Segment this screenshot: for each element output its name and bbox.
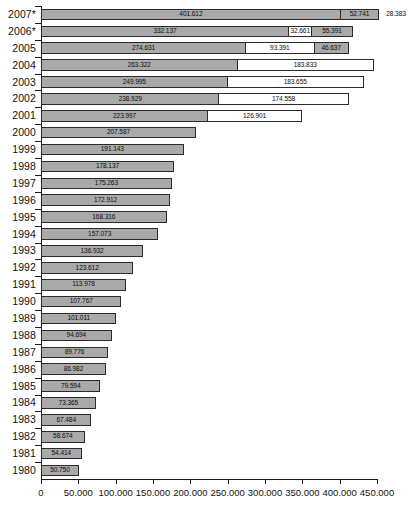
bar-segment[interactable]: 332.137 [41, 26, 289, 38]
x-axis-tick [190, 479, 191, 484]
bar-segment[interactable]: 52.741 [340, 9, 379, 21]
bar-segment[interactable]: 86.982 [41, 363, 106, 375]
bar-value-label: 79.594 [61, 383, 81, 390]
bar-segment[interactable]: 73.365 [41, 397, 96, 409]
y-axis-category-label: 1990 [0, 295, 36, 307]
y-axis-category-label: 2000 [0, 126, 36, 138]
y-axis-tick [35, 310, 41, 311]
stacked-bar[interactable]: 136.932 [41, 245, 143, 257]
x-axis-tick-label: 0 [38, 487, 43, 498]
y-axis-category-label: 1993 [0, 244, 36, 256]
stacked-bar[interactable]: 168.316 [41, 211, 167, 223]
bar-segment[interactable]: 58.674 [41, 431, 85, 443]
bar-segment[interactable]: 136.932 [41, 245, 143, 257]
bar-segment[interactable]: 113.978 [41, 279, 126, 291]
bar-segment[interactable]: 67.484 [41, 414, 91, 426]
stacked-bar[interactable]: 50.750 [41, 465, 79, 477]
y-axis-category-label: 1994 [0, 228, 36, 240]
stacked-bar[interactable]: 191.143 [41, 144, 184, 156]
bar-segment[interactable]: 274.631 [41, 42, 246, 54]
x-axis-tick-label: 450.000 [360, 487, 394, 498]
y-axis-tick [35, 23, 41, 24]
stacked-bar[interactable]: 54.414 [41, 448, 82, 460]
bar-segment[interactable]: 175.263 [41, 178, 172, 190]
stacked-bar[interactable]: 332.13732.66155.391 [41, 26, 353, 38]
y-axis-category-label: 2003 [0, 76, 36, 88]
bar-segment[interactable]: 46.637 [314, 42, 349, 54]
bar-value-label: 54.414 [52, 450, 72, 457]
stacked-bar[interactable]: 207.587 [41, 127, 196, 139]
bar-value-label: 123.612 [76, 265, 99, 272]
bar-value-label: 168.316 [92, 214, 115, 221]
x-axis-tick [78, 479, 79, 484]
bar-segment[interactable]: 183.833 [237, 59, 374, 71]
bar-segment[interactable]: 79.594 [41, 380, 100, 392]
x-axis-tick [228, 479, 229, 484]
bar-value-label: 126.901 [243, 113, 266, 120]
stacked-bar[interactable]: 263.322183.833 [41, 59, 374, 71]
stacked-bar[interactable]: 89.776 [41, 347, 108, 359]
bar-segment[interactable]: 94.694 [41, 330, 112, 342]
stacked-bar[interactable]: 107.767 [41, 296, 121, 308]
stacked-bar[interactable]: 86.982 [41, 363, 106, 375]
bar-segment[interactable]: 249.995 [41, 76, 228, 88]
stacked-bar[interactable]: 94.694 [41, 330, 112, 342]
bar-segment[interactable]: 93.391 [245, 42, 315, 54]
bar-segment[interactable]: 263.322 [41, 59, 238, 71]
stacked-bar[interactable]: 157.073 [41, 228, 158, 240]
bar-segment[interactable]: 183.655 [227, 76, 364, 88]
stacked-bar[interactable]: 67.484 [41, 414, 91, 426]
stacked-bar[interactable]: 58.674 [41, 431, 85, 443]
bar-segment[interactable]: 89.776 [41, 347, 108, 359]
y-axis-category-label: 1995 [0, 211, 36, 223]
bar-segment[interactable]: 178.137 [41, 161, 174, 173]
y-axis-category-label: 1984 [0, 396, 36, 408]
bar-segment[interactable]: 174.558 [218, 93, 348, 105]
y-axis-tick [35, 6, 41, 7]
bar-segment[interactable]: 157.073 [41, 228, 158, 240]
y-axis-tick [35, 462, 41, 463]
stacked-bar[interactable]: 172.912 [41, 194, 170, 206]
stacked-bar[interactable]: 401.61252.74128.383 [41, 9, 379, 21]
stacked-bar[interactable]: 101.011 [41, 313, 116, 325]
stacked-bar[interactable]: 274.63193.39146.637 [41, 42, 349, 54]
x-axis-tick-label: 150.000 [136, 487, 170, 498]
bar-value-label: 172.912 [94, 197, 117, 204]
y-axis-tick [35, 209, 41, 210]
bar-segment[interactable]: 32.661 [288, 26, 312, 38]
bar-segment[interactable]: 126.901 [207, 110, 302, 122]
bar-segment[interactable]: 207.587 [41, 127, 196, 139]
y-axis-tick [35, 293, 41, 294]
y-axis-category-label: 1989 [0, 312, 36, 324]
stacked-bar[interactable]: 175.263 [41, 178, 172, 190]
bar-value-label: 55.391 [322, 28, 342, 35]
bar-segment[interactable]: 401.612 [41, 9, 341, 21]
stacked-bar[interactable]: 79.594 [41, 380, 100, 392]
bar-segment[interactable]: 101.011 [41, 313, 116, 325]
y-axis-category-label: 1987 [0, 346, 36, 358]
bar-segment[interactable]: 50.750 [41, 465, 79, 477]
stacked-bar[interactable]: 123.612 [41, 262, 133, 274]
bar-segment[interactable]: 223.997 [41, 110, 208, 122]
bar-segment[interactable]: 191.143 [41, 144, 184, 156]
stacked-bar[interactable]: 73.365 [41, 397, 96, 409]
bar-segment[interactable]: 172.912 [41, 194, 170, 206]
bar-segment[interactable]: 54.414 [41, 448, 82, 460]
stacked-bar[interactable]: 223.997126.901 [41, 110, 302, 122]
stacked-bar[interactable]: 249.995183.655 [41, 76, 364, 88]
y-axis-tick [35, 259, 41, 260]
y-axis-category-label: 2005 [0, 42, 36, 54]
bar-segment[interactable]: 55.391 [311, 26, 352, 38]
bar-segment[interactable]: 238.929 [41, 93, 219, 105]
bar-segment[interactable]: 168.316 [41, 211, 167, 223]
stacked-bar[interactable]: 238.929174.558 [41, 93, 349, 105]
y-axis-tick [35, 192, 41, 193]
stacked-bar[interactable]: 178.137 [41, 161, 174, 173]
bar-value-label: 174.558 [272, 96, 295, 103]
bar-value-label: 223.997 [113, 113, 136, 120]
stacked-bar[interactable]: 113.978 [41, 279, 126, 291]
bar-value-label: 157.073 [88, 231, 111, 238]
bar-segment[interactable]: 107.767 [41, 296, 121, 308]
bar-segment[interactable]: 123.612 [41, 262, 133, 274]
y-axis-tick [35, 124, 41, 125]
